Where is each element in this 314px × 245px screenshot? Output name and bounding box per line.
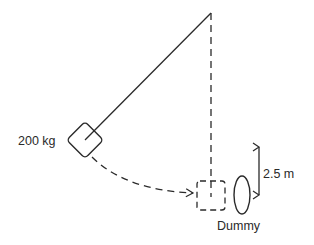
mass-label: 200 kg: [18, 134, 56, 148]
height-label: 2.5 m: [263, 167, 294, 181]
dummy-label: Dummy: [217, 219, 261, 233]
dummy-shape: [234, 176, 250, 214]
swing-path-arrow: [92, 157, 193, 193]
pendulum-diagram: 200 kg 2.5 m Dummy: [0, 0, 314, 245]
diagram-canvas: 200 kg 2.5 m Dummy: [0, 0, 314, 245]
pendulum-rope: [85, 13, 211, 140]
